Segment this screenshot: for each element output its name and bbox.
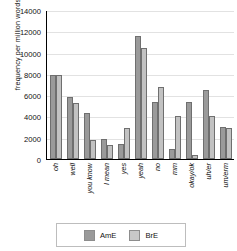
x-tick-label: okay/ok: [187, 163, 196, 188]
y-tick-label: 10000: [20, 49, 41, 58]
x-axis-tick-labels: ohwellyou knowI meanyesyeahnommokay/okuh…: [46, 162, 234, 220]
bar-group: [217, 11, 234, 159]
bar-group: [183, 11, 200, 159]
x-tick-cell: yes: [114, 162, 131, 220]
y-tick-label: 2000: [24, 134, 41, 143]
x-tick-cell: okay/ok: [183, 162, 200, 220]
x-tick-cell: no: [149, 162, 166, 220]
bar-bre: [56, 75, 62, 159]
x-tick-label: yes: [118, 163, 127, 174]
bar-group: [98, 11, 115, 159]
x-tick-label: I mean: [101, 163, 110, 185]
y-tick-label: 8000: [24, 70, 41, 79]
bar-group: [132, 11, 149, 159]
legend-swatch-bre: [129, 230, 140, 241]
x-tick-label: oh: [50, 163, 59, 171]
bar-group: [47, 11, 64, 159]
x-tick-label: um/erm: [221, 163, 230, 187]
y-tick-label: 12000: [20, 28, 41, 37]
y-tick-label: 4000: [24, 113, 41, 122]
bar-group: [64, 11, 81, 159]
bar-group: [149, 11, 166, 159]
x-tick-cell: I mean: [97, 162, 114, 220]
bar-bre: [175, 116, 181, 159]
bar-ame: [186, 102, 192, 159]
bar-group: [166, 11, 183, 159]
y-axis-tick-labels: 02000400060008000100001200014000: [0, 11, 44, 160]
legend-item: AmE: [84, 230, 116, 241]
x-tick-label: mm: [170, 163, 179, 175]
bar-bre: [192, 155, 198, 159]
plot-area: [46, 11, 234, 160]
bar-bre: [226, 128, 232, 159]
bar-bre: [158, 87, 164, 159]
x-tick-label: you know: [84, 163, 93, 193]
legend-label: BrE: [145, 231, 158, 240]
x-tick-label: no: [153, 163, 162, 171]
bar-bre: [90, 140, 96, 159]
bar-bre: [124, 128, 130, 159]
x-tick-cell: uh/er: [200, 162, 217, 220]
x-tick-cell: yeah: [131, 162, 148, 220]
x-tick-cell: oh: [46, 162, 63, 220]
bar-chart-figure: frequency per million words 020004000600…: [0, 0, 237, 251]
x-tick-cell: you know: [80, 162, 97, 220]
bar-groups: [47, 11, 234, 159]
legend-item: BrE: [129, 230, 158, 241]
chart-legend: AmEBrE: [56, 223, 186, 247]
x-tick-cell: um/erm: [217, 162, 234, 220]
x-tick-cell: mm: [166, 162, 183, 220]
bar-group: [81, 11, 98, 159]
y-tick-label: 6000: [24, 92, 41, 101]
x-tick-cell: well: [63, 162, 80, 220]
x-tick-label: uh/er: [204, 163, 213, 179]
bar-bre: [107, 145, 113, 159]
legend-label: AmE: [100, 231, 116, 240]
x-tick-label: well: [67, 163, 76, 175]
y-tick-label: 14000: [20, 7, 41, 16]
bar-bre: [73, 103, 79, 159]
bar-group: [200, 11, 217, 159]
bar-bre: [209, 116, 215, 159]
bar-bre: [141, 48, 147, 159]
x-tick-label: yeah: [136, 163, 145, 179]
y-tick-label: 0: [37, 156, 41, 165]
legend-swatch-ame: [84, 230, 95, 241]
bar-group: [115, 11, 132, 159]
